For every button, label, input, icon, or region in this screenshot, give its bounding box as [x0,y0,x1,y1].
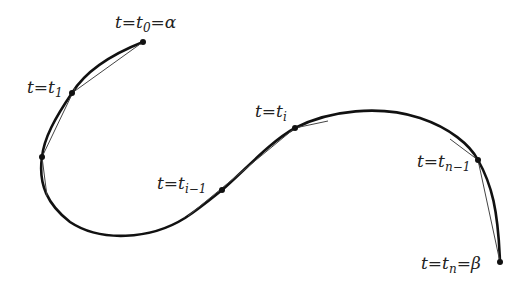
point-tn-1 [475,157,481,163]
label-sym: t [178,173,185,193]
label-sym: t [438,151,445,171]
label-sym: t [136,12,143,32]
label-sub: i [283,110,287,124]
point-t2 [39,154,45,160]
label-sub: i−1 [185,182,207,196]
label-ti-minus-1: t=ti−1 [157,175,206,192]
chord-ti-1-ti [188,128,295,216]
label-var: t [157,173,164,193]
label-var: t [255,101,262,121]
label-eq: = [122,12,136,32]
label-var: t [115,12,122,32]
label-sub: 1 [55,86,63,100]
diagram-canvas: t=t0=α t=t1 t=ti−1 t=ti t=tn−1 t=tn=β [0,0,522,300]
label-t1: t=t1 [27,79,63,96]
point-ti-1 [219,187,225,193]
label-sub: 0 [143,21,151,35]
label-sym: t [48,77,55,97]
label-sym: t [442,253,449,273]
label-eq: = [424,151,438,171]
label-t0: t=t0=α [115,14,176,31]
label-var: t [27,77,34,97]
label-tail: =α [151,12,177,32]
label-var: t [421,253,428,273]
label-eq: = [164,173,178,193]
label-eq: = [262,101,276,121]
label-ti: t=ti [255,103,287,120]
point-tn [497,259,503,265]
label-eq: = [34,77,48,97]
label-tn: t=tn=β [421,255,481,272]
label-var: t [417,151,424,171]
point-t0 [140,39,146,45]
label-tn-minus-1: t=tn−1 [417,153,470,170]
chord-t0-t1 [72,42,143,93]
label-sym: t [276,101,283,121]
point-ti [292,125,298,131]
label-eq: = [428,253,442,273]
label-sub: n [449,262,457,276]
label-tail: =β [457,253,481,273]
point-t1 [69,90,75,96]
label-sub: n−1 [445,160,470,174]
